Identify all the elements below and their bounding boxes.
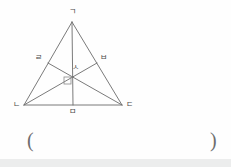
answer-open-paren: ( [27,130,34,150]
midpoint-label-base: ㅁ [69,108,76,116]
segment-median-from-right [48,63,122,105]
answer-blank[interactable] [40,132,206,150]
geometry-figure: ㄱ ㄴ ㄷ ㄹ ㅂ ㅁ ㅅ [0,0,231,124]
segment-median-from-left [24,63,97,105]
bottom-strip [0,159,231,167]
midpoint-label-right-side: ㅂ [100,54,107,62]
vertex-label-right: ㄷ [126,101,133,109]
answer-close-paren: ) [210,130,217,150]
centroid-label: ㅅ [72,64,79,72]
midpoint-label-left-side: ㄹ [35,54,42,62]
problem-figure-page: ㄱ ㄴ ㄷ ㄹ ㅂ ㅁ ㅅ ( ) [0,0,231,167]
vertex-label-apex: ㄱ [69,8,76,16]
answer-row: ( ) [0,124,231,158]
vertex-label-left: ㄴ [13,101,20,109]
triangle-diagram-svg [0,0,231,124]
